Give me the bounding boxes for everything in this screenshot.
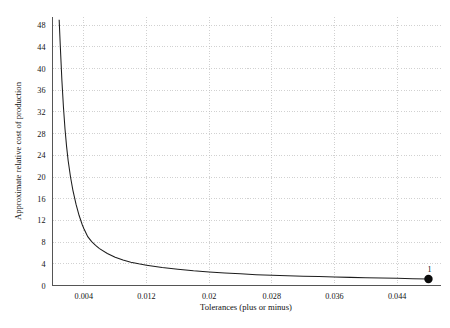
data-point-marker: [424, 275, 432, 283]
y-tick-label: 20: [37, 173, 45, 182]
cost-curve: [59, 20, 428, 279]
x-tick-label: 0.012: [137, 292, 155, 301]
y-axis-title: Approximate relative cost of production: [13, 81, 23, 220]
annotation-group: 1: [424, 265, 432, 283]
x-tick-label: 0.044: [388, 292, 406, 301]
y-tick-label: 8: [41, 238, 45, 247]
y-tick-label: 40: [37, 65, 45, 74]
cost-vs-tolerance-chart: 04812162024283236404448 0.0040.0120.020.…: [0, 0, 450, 328]
y-tick-label: 16: [37, 195, 45, 204]
y-tick-label: 12: [37, 216, 45, 225]
x-tick-label: 0.004: [75, 292, 93, 301]
y-tick-label: 24: [37, 151, 45, 160]
y-tick-label: 0: [41, 282, 45, 291]
y-tick-label: 4: [41, 260, 45, 269]
y-tick-label: 44: [37, 43, 45, 52]
y-tick-label: 28: [37, 130, 45, 139]
axis-lines-group: [53, 17, 442, 286]
x-tick-label: 0.028: [263, 292, 281, 301]
y-tick-label: 32: [37, 108, 45, 117]
gridlines-group: [53, 17, 442, 286]
x-axis-title: Tolerances (plus or minus): [200, 302, 292, 312]
data-point-label: 1: [427, 265, 431, 274]
x-tick-labels-group: 0.0040.0120.020.0280.0360.044: [75, 292, 407, 301]
x-tick-label: 0.036: [325, 292, 343, 301]
x-tick-label: 0.02: [202, 292, 216, 301]
y-tick-labels-group: 04812162024283236404448: [37, 21, 45, 290]
chart-plot-area: 04812162024283236404448 0.0040.0120.020.…: [0, 0, 450, 328]
y-tick-label: 48: [37, 21, 45, 30]
y-tick-label: 36: [37, 86, 45, 95]
